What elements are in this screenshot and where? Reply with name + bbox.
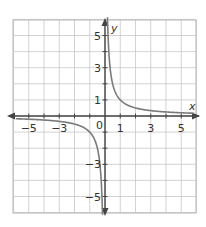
x-tick-label: 1 [117, 122, 124, 135]
hyperbola-chart: −5−3135531−3−5 x y 0 [0, 0, 206, 227]
x-tick-label: 5 [178, 122, 185, 135]
x-tick-label: −5 [21, 122, 37, 135]
y-axis-label: y [110, 22, 118, 35]
y-tick-label: −3 [85, 158, 101, 171]
x-tick-label: 3 [147, 122, 154, 135]
origin-label: 0 [96, 119, 103, 132]
y-tick-label: 3 [94, 62, 101, 75]
axes [7, 18, 200, 216]
y-tick-label: 1 [94, 94, 101, 107]
x-tick-label: −3 [51, 122, 67, 135]
x-axis-left-arrow-icon [7, 113, 15, 120]
x-axis-label: x [188, 100, 196, 113]
y-tick-label: −5 [85, 191, 101, 204]
y-tick-label: 5 [94, 30, 101, 43]
